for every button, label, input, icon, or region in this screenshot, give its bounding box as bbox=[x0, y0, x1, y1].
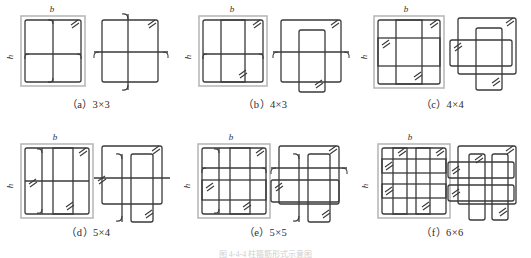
exploded-tie-hook-top-icon bbox=[116, 154, 122, 159]
outer-stirrup bbox=[202, 148, 266, 214]
panel-e-caption: （e）5×5 bbox=[177, 224, 354, 239]
inner-horz1-hook-icon bbox=[385, 162, 393, 170]
panel-b-drawing: b h bbox=[177, 0, 354, 100]
tie1-hook-top-icon bbox=[214, 149, 219, 153]
panel-d-caption: （d）5×4 bbox=[0, 224, 177, 239]
panel-a: b h bbox=[0, 0, 177, 118]
stirrup-hook-icon bbox=[256, 148, 264, 156]
exploded-hook-icon bbox=[148, 20, 156, 28]
exploded-inner-rect-tie-vertical-2 bbox=[492, 154, 508, 220]
exploded-inner-vert2-hook-icon bbox=[499, 208, 507, 216]
panel-e-drawing: b h bbox=[177, 128, 354, 228]
exploded-view bbox=[94, 146, 170, 222]
inner-vert2-hook-icon bbox=[422, 202, 430, 210]
exploded-inner-vert-hook-icon bbox=[492, 78, 500, 86]
stirrup-hook-icon bbox=[253, 20, 261, 28]
panel-c: b h （c）4×4 bbox=[354, 0, 531, 118]
dimension-label-h: h bbox=[5, 183, 15, 188]
exploded-tieh-hook-left-icon bbox=[271, 168, 276, 174]
dimension-label-h: h bbox=[359, 54, 369, 59]
panel-b: b h （b）4×3 bbox=[177, 0, 354, 118]
inner-tie-hook-icon bbox=[239, 70, 247, 78]
exploded-outer-stirrup bbox=[102, 20, 158, 82]
exploded-inner-hook-icon bbox=[315, 80, 323, 88]
panel-c-drawing: b h bbox=[354, 0, 531, 100]
exploded-tie-hook-right-icon bbox=[163, 52, 168, 58]
inner-vert1-hook-icon bbox=[398, 148, 406, 156]
exploded-tie-hook-right-icon bbox=[344, 52, 349, 58]
exploded-tie-hook-bottom-icon bbox=[116, 216, 122, 221]
outer-stirrup bbox=[382, 148, 446, 214]
exploded-tie-hook-bottom-icon bbox=[122, 85, 128, 90]
exploded-view bbox=[271, 146, 347, 222]
exploded-hook-icon bbox=[506, 18, 514, 26]
exploded-inner-vert-hook-icon bbox=[322, 210, 330, 218]
panel-a-caption: （a）3×3 bbox=[0, 96, 177, 111]
exploded-view bbox=[94, 14, 168, 90]
tie1-hook-bottom-icon bbox=[37, 209, 42, 213]
exploded-inner-rect-tie-vertical-1 bbox=[469, 154, 485, 220]
dimension-label-b: b bbox=[50, 4, 55, 14]
exploded-view bbox=[448, 146, 516, 220]
inner-rect-tie-horizontal bbox=[378, 38, 440, 66]
tie1-hook-top-icon bbox=[37, 149, 42, 153]
dimension-label-b: b bbox=[404, 4, 409, 14]
inner-horz-hook-icon bbox=[206, 183, 214, 191]
exploded-inner-horz2-hook-icon bbox=[452, 189, 460, 197]
dimension-label-b: b bbox=[53, 132, 58, 142]
panel-b-caption: （b）4×3 bbox=[177, 96, 354, 111]
inner-rect-tie-vertical-1 bbox=[393, 148, 407, 214]
dimension-label-b: b bbox=[229, 132, 234, 142]
dimension-label-b: b bbox=[408, 132, 413, 142]
tie-hook-left-icon bbox=[29, 179, 37, 187]
panel-f: b h bbox=[354, 128, 531, 246]
exploded-outer-stirrup bbox=[281, 20, 341, 82]
outer-stirrup bbox=[203, 20, 263, 82]
dimension-label-h: h bbox=[182, 183, 192, 188]
stirrup-hook-icon bbox=[436, 148, 444, 156]
exploded-hook-icon bbox=[152, 146, 160, 154]
inner-vert-hook-icon bbox=[414, 72, 422, 80]
panel-f-drawing: b h bbox=[354, 128, 531, 228]
exploded-tie-hook-bottom-icon bbox=[293, 216, 299, 221]
dimension-label-b: b bbox=[230, 4, 235, 14]
exploded-tie-hook-top-icon bbox=[122, 14, 128, 19]
dimension-label-h: h bbox=[360, 183, 370, 188]
inner-rect-tie-vertical-2 bbox=[416, 148, 430, 214]
exploded-tie-hook-left-icon bbox=[273, 52, 278, 58]
inner-horz2-hook-icon bbox=[385, 187, 393, 195]
exploded-tie-hook-top-icon bbox=[293, 154, 299, 159]
panel-f-caption: （f）6×6 bbox=[354, 224, 531, 239]
exploded-inner-rect-tie-vertical bbox=[476, 28, 502, 90]
exploded-hook-icon bbox=[506, 146, 514, 154]
inner-horz-hook-icon bbox=[382, 40, 390, 48]
dimension-label-h: h bbox=[5, 54, 15, 59]
exploded-hook-icon bbox=[331, 20, 339, 28]
inner-rect-tie-horizontal bbox=[202, 180, 266, 200]
exploded-inner-horz1-hook-icon bbox=[452, 166, 460, 174]
exploded-hook-icon bbox=[329, 146, 337, 154]
stirrup-arrangement-figure: b h bbox=[0, 0, 531, 258]
exploded-view bbox=[273, 20, 349, 92]
exploded-inner-rect-tie bbox=[299, 30, 325, 92]
stirrup-hook-icon bbox=[71, 20, 79, 28]
stirrup-hook-icon bbox=[430, 20, 438, 28]
exploded-tieh-hook-right-icon bbox=[342, 168, 347, 174]
tie1-hook-bottom-icon bbox=[214, 209, 219, 213]
exploded-inner-hook-icon bbox=[145, 210, 153, 218]
panel-e: b h bbox=[177, 128, 354, 246]
dimension-label-h: h bbox=[183, 54, 193, 59]
exploded-view bbox=[450, 18, 516, 90]
panel-d: b h bbox=[0, 128, 177, 246]
figure-caption-truncated: 图 4-4-4 柱箍筋形式示意图 bbox=[0, 248, 531, 258]
outer-stirrup bbox=[378, 20, 440, 84]
exploded-tie-hook-left-icon bbox=[94, 52, 99, 58]
panel-c-caption: （c）4×4 bbox=[354, 96, 531, 111]
stirrup-hook-icon bbox=[79, 148, 87, 156]
panel-d-drawing: b h bbox=[0, 128, 177, 228]
panel-a-drawing: b h bbox=[0, 0, 177, 100]
